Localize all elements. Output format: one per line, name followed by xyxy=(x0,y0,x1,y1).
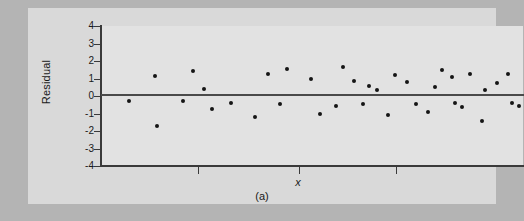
y-axis-tick xyxy=(94,79,100,80)
y-axis-tick-label: -1 xyxy=(50,109,94,119)
x-axis-line xyxy=(100,165,524,167)
y-axis-tick-label-text: -4 xyxy=(54,161,94,171)
y-axis-tick xyxy=(94,131,100,132)
scatter-point xyxy=(495,81,499,85)
y-axis-tick-label-text: 3 xyxy=(54,39,94,49)
scatter-point xyxy=(414,102,418,106)
y-axis-tick-label-text: 2 xyxy=(54,56,94,66)
x-axis-title: x xyxy=(271,176,325,188)
zero-reference-line xyxy=(101,94,524,96)
y-axis-tick xyxy=(94,166,100,167)
y-axis-tick-label: 0 xyxy=(50,91,94,101)
scatter-point xyxy=(367,84,371,88)
scatter-point xyxy=(352,79,356,83)
y-axis-tick xyxy=(94,114,100,115)
y-axis-tick-label-text: -1 xyxy=(54,109,94,119)
y-axis-tick xyxy=(94,26,100,27)
y-axis-tick xyxy=(94,149,100,150)
y-axis-tick-label: -4 xyxy=(50,161,94,171)
y-axis-tick-label: -3 xyxy=(50,144,94,154)
y-axis-tick-label: 2 xyxy=(50,56,94,66)
figure-panel: 43210-1-2-3-4 Residual x xyxy=(28,8,496,204)
scatter-point xyxy=(506,72,510,76)
y-axis-title: Residual xyxy=(40,42,52,122)
y-axis-tick-label: 1 xyxy=(50,74,94,84)
y-axis-tick-label-text: 1 xyxy=(54,74,94,84)
x-axis-tick xyxy=(198,167,199,174)
y-axis-tick xyxy=(94,44,100,45)
scatter-point xyxy=(318,112,322,116)
y-axis-tick-label-text: 4 xyxy=(54,21,94,31)
scatter-point xyxy=(253,115,257,119)
y-axis-tick-label-text: -3 xyxy=(54,144,94,154)
scatter-point xyxy=(334,104,338,108)
scatter-point xyxy=(450,75,454,79)
x-axis-tick xyxy=(396,167,397,174)
scatter-point xyxy=(266,72,270,76)
y-axis-tick-label-text: 0 xyxy=(54,91,94,101)
scatter-point xyxy=(517,104,521,108)
scatter-point xyxy=(460,105,464,109)
scatter-point xyxy=(375,88,379,92)
y-axis-tick-label: 3 xyxy=(50,39,94,49)
scatter-point xyxy=(285,67,289,71)
scatter-point xyxy=(426,110,430,114)
scatter-point xyxy=(341,65,345,69)
figure-caption: (a) xyxy=(232,190,292,202)
scatter-point xyxy=(405,80,409,84)
residual-plot-figure: 43210-1-2-3-4 Residual x (a) xyxy=(0,0,524,221)
y-axis-tick-label: 4 xyxy=(50,21,94,31)
scatter-point xyxy=(191,69,195,73)
plot-area xyxy=(101,26,523,166)
y-axis-tick-label-text: -2 xyxy=(54,126,94,136)
y-axis-tick-label: -2 xyxy=(50,126,94,136)
scatter-point xyxy=(468,72,472,76)
scatter-point xyxy=(155,124,159,128)
x-axis-tick xyxy=(299,167,300,174)
y-axis-tick xyxy=(94,96,100,97)
y-axis-tick xyxy=(94,61,100,62)
